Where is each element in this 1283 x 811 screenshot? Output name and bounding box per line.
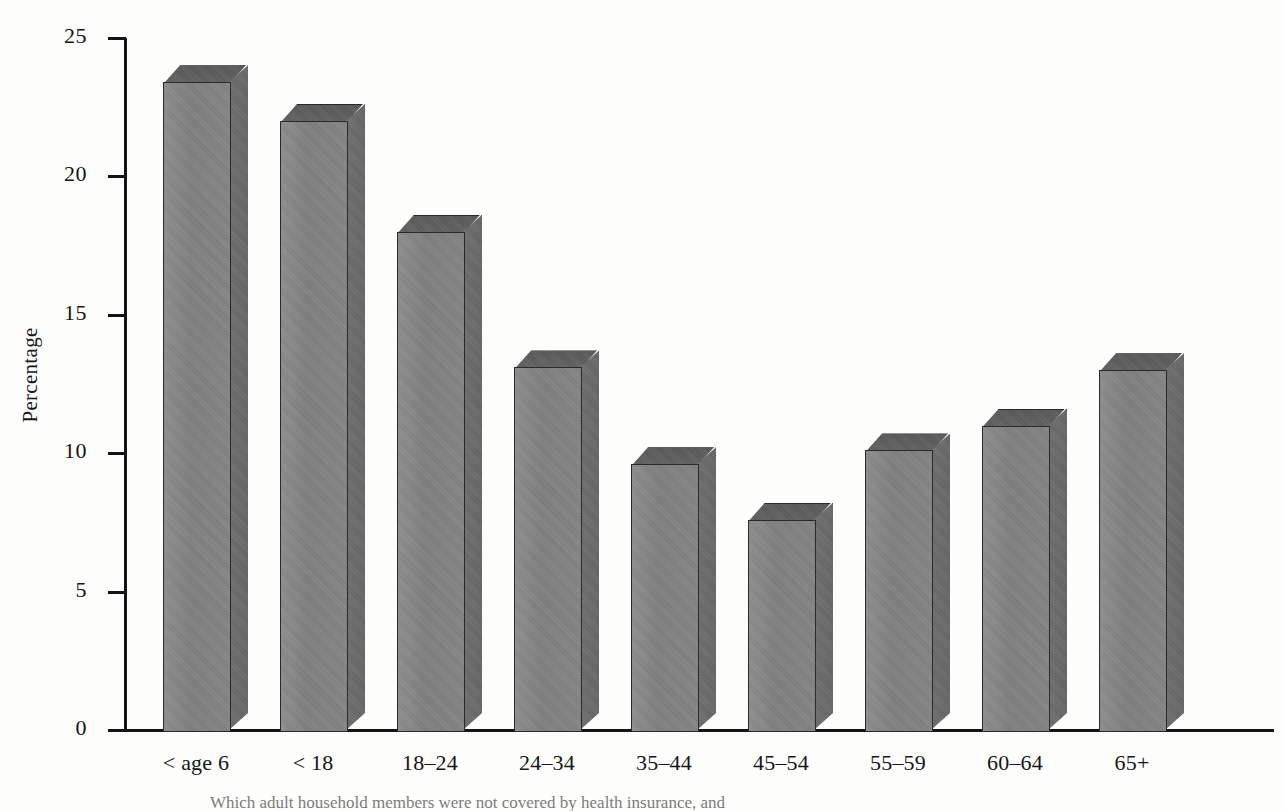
bar-side-face xyxy=(346,104,366,732)
y-axis-tick-label: 10 xyxy=(17,440,87,462)
plot-area: 0510152025< age 6< 1818–2424–3435–4445–5… xyxy=(0,0,1283,811)
x-axis-tick-label: 65+ xyxy=(1062,750,1202,776)
bar-front-face xyxy=(982,426,1050,732)
bar-front-face xyxy=(163,82,231,732)
y-axis-tick-label: 20 xyxy=(17,163,87,185)
bar-side-face xyxy=(463,215,483,732)
bar-side-face xyxy=(580,350,600,732)
chart-page: Percentage 0510152025< age 6< 1818–2424–… xyxy=(0,0,1283,811)
bar xyxy=(748,503,831,730)
bar xyxy=(280,104,363,730)
bar-front-face xyxy=(1099,370,1167,732)
bar xyxy=(514,350,597,730)
bar-front-face xyxy=(865,450,933,732)
bar-front-face xyxy=(514,367,582,732)
bar xyxy=(1099,353,1182,730)
bar-side-face xyxy=(229,65,249,732)
bar-side-face xyxy=(1048,409,1068,732)
bar-front-face xyxy=(397,232,465,732)
bar-front-face xyxy=(631,464,699,732)
bar xyxy=(397,215,480,730)
bar-side-face xyxy=(1165,353,1185,732)
bar-side-face xyxy=(931,433,951,732)
y-axis-tick xyxy=(108,591,126,594)
y-axis-tick xyxy=(108,452,126,455)
y-axis-tick xyxy=(108,314,126,317)
y-axis-tick xyxy=(108,37,126,40)
bar-front-face xyxy=(280,121,348,732)
bar-side-face xyxy=(697,447,717,732)
bar xyxy=(163,65,246,730)
bar-front-face xyxy=(748,520,816,732)
y-axis-tick-label: 15 xyxy=(17,302,87,324)
bar xyxy=(631,447,714,730)
bar xyxy=(982,409,1065,730)
y-axis-tick xyxy=(108,729,126,732)
y-axis-tick-label: 0 xyxy=(17,717,87,739)
y-axis-tick xyxy=(108,175,126,178)
y-axis-tick-label: 5 xyxy=(17,579,87,601)
y-axis-tick-label: 25 xyxy=(17,25,87,47)
figure-caption: Which adult household members were not c… xyxy=(210,793,1110,811)
bar xyxy=(865,433,948,730)
bar-side-face xyxy=(814,503,834,732)
